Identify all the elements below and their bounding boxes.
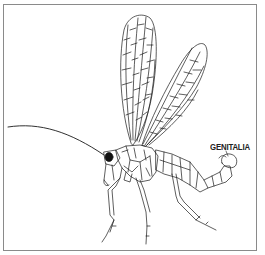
genitalia-structure	[219, 151, 237, 168]
antenna	[8, 126, 104, 155]
insect-illustration	[0, 0, 265, 255]
forewing	[121, 15, 157, 145]
genitalia-label: GENITALIA	[210, 141, 250, 152]
thorax	[116, 145, 158, 182]
legs	[102, 168, 216, 244]
